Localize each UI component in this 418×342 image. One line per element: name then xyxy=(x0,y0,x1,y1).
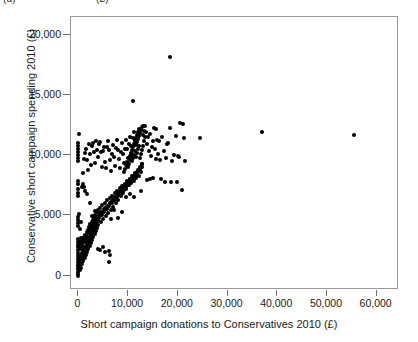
scatter-point xyxy=(174,134,178,138)
scatter-point xyxy=(124,138,128,142)
y-tick-label: 15,000 xyxy=(29,89,61,99)
scatter-point xyxy=(151,176,155,180)
scatter-point xyxy=(77,212,81,216)
y-tick-label: 20,000 xyxy=(29,29,61,39)
scatter-point xyxy=(182,136,186,140)
scatter-point xyxy=(106,139,110,143)
scatter-point xyxy=(112,208,116,212)
y-tick-mark xyxy=(63,94,70,95)
scatter-point xyxy=(156,152,160,156)
y-tick-mark xyxy=(63,34,70,35)
caption-part-a: (a) xyxy=(3,0,16,4)
scatter-point xyxy=(170,159,174,163)
scatter-point xyxy=(115,138,119,142)
scatter-point xyxy=(107,249,111,253)
scatter-point xyxy=(104,166,108,170)
scatter-point xyxy=(101,149,105,153)
scatter-point xyxy=(79,266,83,270)
scatter-point xyxy=(162,149,166,153)
scatter-point xyxy=(116,198,120,202)
x-tick-mark xyxy=(127,290,128,296)
scatter-point xyxy=(169,180,173,184)
scatter-point xyxy=(108,158,112,162)
scatter-point xyxy=(157,139,161,143)
scatter-point xyxy=(165,142,169,146)
scatter-point xyxy=(126,156,130,160)
y-tick-label: 10,000 xyxy=(29,149,61,159)
plot-frame xyxy=(70,16,398,289)
scatter-point xyxy=(260,130,264,134)
x-tick-mark xyxy=(276,290,277,296)
scatter-point xyxy=(119,194,123,198)
scatter-point xyxy=(168,55,172,59)
scatter-point xyxy=(126,165,130,169)
scatter-point xyxy=(125,147,129,151)
caption-fragment: (a) (£) xyxy=(0,0,418,5)
scatter-point xyxy=(140,162,144,166)
scatter-point xyxy=(109,217,113,221)
scatter-point xyxy=(132,130,136,134)
caption-part-b: (£) xyxy=(96,0,109,4)
y-tick-mark xyxy=(63,214,70,215)
scatter-point xyxy=(124,195,128,199)
scatter-point xyxy=(128,192,132,196)
scatter-point xyxy=(139,152,143,156)
scatter-point xyxy=(120,141,124,145)
scatter-point xyxy=(154,127,158,131)
scatter-point xyxy=(112,155,116,159)
scatter-point xyxy=(84,147,88,151)
scatter-point xyxy=(118,166,122,170)
y-axis-label: Conservative short campaign spending 201… xyxy=(25,21,37,271)
scatter-point xyxy=(130,152,134,156)
y-tick-mark xyxy=(63,275,70,276)
x-tick-mark xyxy=(177,290,178,296)
scatter-point xyxy=(122,170,126,174)
scatter-point xyxy=(175,180,179,184)
scatter-point xyxy=(103,160,107,164)
scatter-point xyxy=(98,140,102,144)
scatter-point xyxy=(164,156,168,160)
scatter-point xyxy=(137,174,141,178)
scatter-point xyxy=(145,178,149,182)
scatter-point xyxy=(81,171,85,175)
x-tick-mark xyxy=(77,290,78,296)
scatter-point xyxy=(76,141,80,145)
scatter-point xyxy=(114,201,118,205)
scatter-point xyxy=(159,177,163,181)
scatter-point xyxy=(107,260,111,264)
scatter-point xyxy=(96,247,100,251)
scatter-point xyxy=(181,122,185,126)
scatter-point xyxy=(180,188,184,192)
scatter-point xyxy=(103,250,107,254)
scatter-point xyxy=(90,144,94,148)
scatter-plot-figure: (a) (£) Conservative short campaign spen… xyxy=(0,0,418,342)
scatter-point xyxy=(76,191,80,195)
scatter-point xyxy=(168,126,172,130)
scatter-points-layer xyxy=(71,17,397,288)
scatter-point xyxy=(86,168,90,172)
scatter-point xyxy=(158,158,162,162)
scatter-point xyxy=(131,99,135,103)
scatter-point xyxy=(121,152,125,156)
scatter-point xyxy=(153,147,157,151)
x-tick-mark xyxy=(376,290,377,296)
scatter-point xyxy=(78,227,82,231)
scatter-point xyxy=(76,179,80,183)
scatter-point xyxy=(140,148,144,152)
x-tick-mark xyxy=(326,290,327,296)
scatter-point xyxy=(83,151,87,155)
scatter-point xyxy=(160,135,164,139)
scatter-point xyxy=(85,158,89,162)
scatter-point xyxy=(145,142,149,146)
scatter-point xyxy=(93,161,97,165)
scatter-point xyxy=(149,154,153,158)
y-tick-mark xyxy=(63,154,70,155)
scatter-point xyxy=(139,170,143,174)
scatter-point xyxy=(177,155,181,159)
scatter-point xyxy=(148,132,152,136)
scatter-point xyxy=(79,220,83,224)
x-axis-label: Short campaign donations to Conservative… xyxy=(0,318,418,330)
scatter-point xyxy=(113,164,117,168)
scatter-point xyxy=(117,157,121,161)
x-tick-mark xyxy=(227,290,228,296)
